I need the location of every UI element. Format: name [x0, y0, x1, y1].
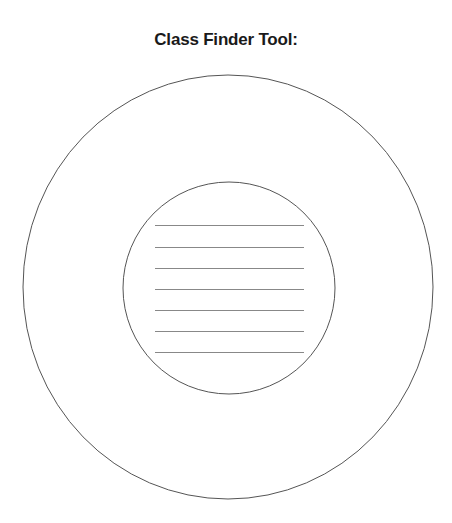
inner-circle: [123, 182, 335, 394]
writing-lines: [155, 226, 304, 353]
class-finder-diagram: [0, 0, 452, 523]
outer-circle: [23, 75, 433, 499]
